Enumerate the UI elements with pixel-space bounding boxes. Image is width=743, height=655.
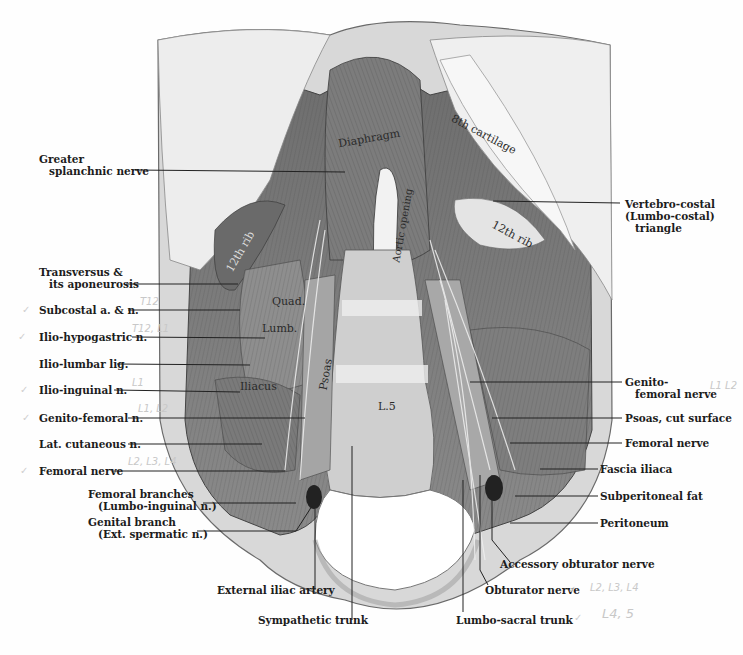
- label-ilio-lumbar: Ilio-lumbar lig.: [39, 358, 128, 370]
- note-ilio-hypogastric: T12, L1: [132, 323, 169, 334]
- check-mark-icon: ✓: [22, 412, 30, 423]
- label-femoral-nerve-right: Femoral nerve: [625, 437, 709, 449]
- anatomy-figure: Diaphragm Aortic opening 8th cartilage 1…: [0, 0, 743, 655]
- inline-label-lumb: Lumb.: [262, 322, 297, 335]
- note-ilio-inguinal: L1: [132, 377, 144, 388]
- label-sympathetic-trunk: Sympathetic trunk: [258, 614, 368, 626]
- external-iliac-right: [485, 475, 503, 501]
- check-mark-icon: ✓: [568, 584, 576, 595]
- note-obturator: L2, L3, L4: [590, 582, 639, 593]
- label-ilio-hypogastric: Ilio-hypogastric n.: [39, 331, 147, 343]
- check-mark-icon: ✓: [22, 304, 30, 315]
- label-vertebro-costal-triangle: Vertebro-costal (Lumbo-costal) triangle: [625, 198, 715, 234]
- note-genito-femoral: L1, L2: [138, 403, 168, 414]
- label-psoas-cut-surface: Psoas, cut surface: [625, 412, 732, 424]
- note-subcostal: T12: [140, 296, 159, 307]
- label-obturator-nerve: Obturator nerve: [485, 584, 580, 596]
- label-peritoneum: Peritoneum: [600, 517, 669, 529]
- label-lumbo-sacral-trunk: Lumbo-sacral trunk: [456, 614, 573, 626]
- illustration: [0, 0, 743, 655]
- note-genito-femoral-right: L1 L2: [710, 380, 737, 391]
- label-accessory-obturator-nerve: Accessory obturator nerve: [500, 558, 655, 570]
- check-mark-icon: ✓: [574, 612, 582, 623]
- label-genito-femoral-right: Genito- femoral nerve: [625, 376, 717, 400]
- label-transversus: Transversus & its aponeurosis: [39, 266, 139, 290]
- check-mark-icon: ✓: [18, 331, 26, 342]
- label-subperitoneal-fat: Subperitoneal fat: [600, 490, 703, 502]
- inline-label-l5: L.5: [378, 400, 396, 413]
- label-femoral-branches: Femoral branches (Lumbo-inguinal n.): [88, 488, 217, 512]
- inline-label-quad: Quad.: [272, 295, 305, 308]
- inline-label-iliacus: Iliacus: [240, 380, 277, 393]
- note-lumbo-sacral: L4, 5: [602, 606, 634, 621]
- note-femoral: L2, L3, L4: [128, 456, 177, 467]
- label-genito-femoral-left: Genito-femoral n.: [39, 412, 143, 424]
- check-mark-icon: ✓: [20, 384, 28, 395]
- label-genital-branch: Genital branch (Ext. spermatic n.): [88, 516, 208, 540]
- label-greater-splanchnic-nerve: Greater splanchnic nerve: [39, 153, 149, 177]
- label-lat-cutaneous: Lat. cutaneous n.: [39, 438, 141, 450]
- check-mark-icon: ✓: [20, 465, 28, 476]
- label-subcostal: Subcostal a. & n.: [39, 304, 139, 316]
- label-external-iliac-artery: External iliac artery: [217, 584, 335, 596]
- label-femoral-nerve-left: Femoral nerve: [39, 465, 123, 477]
- label-fascia-iliaca: Fascia iliaca: [600, 463, 672, 475]
- label-ilio-inguinal: Ilio-inguinal n.: [39, 384, 127, 396]
- external-iliac-left: [306, 485, 322, 509]
